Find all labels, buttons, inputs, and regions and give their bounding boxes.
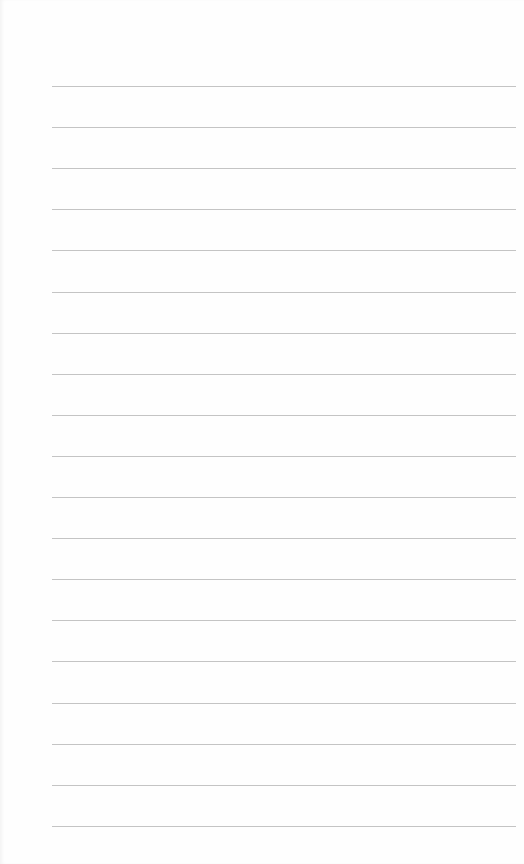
ruled-line [52,209,516,210]
ruled-line [52,703,516,704]
ruled-line [52,415,516,416]
ruled-line [52,620,516,621]
ruled-line [52,785,516,786]
ruled-line [52,456,516,457]
ruled-line [52,826,516,827]
ruled-line [52,497,516,498]
ruled-line [52,374,516,375]
ruled-line [52,744,516,745]
ruled-line [52,127,516,128]
lined-paper-page [0,0,524,864]
ruled-line [52,661,516,662]
ruled-line [52,579,516,580]
ruled-line [52,292,516,293]
ruled-line [52,538,516,539]
ruled-line [52,250,516,251]
ruled-line [52,168,516,169]
ruled-line [52,333,516,334]
ruled-line [52,86,516,87]
